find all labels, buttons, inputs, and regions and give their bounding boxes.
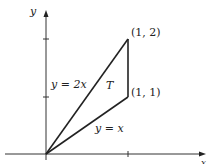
diagram-canvas: y x (1, 2) (1, 1) y = 2x y = x T (0, 0, 208, 164)
line-label-y-x: y = x (94, 122, 124, 135)
point-label-1-2: (1, 2) (131, 26, 161, 39)
x-axis-arrow-icon (199, 152, 206, 157)
region-label-t: T (106, 79, 115, 92)
x-axis-label: x (201, 158, 206, 164)
line-label-y-2x: y = 2x (50, 78, 87, 91)
y-axis-arrow-icon (44, 10, 49, 17)
line-y-eq-2x (46, 39, 128, 154)
y-axis-label: y (29, 5, 37, 18)
point-label-1-1: (1, 1) (131, 86, 161, 99)
